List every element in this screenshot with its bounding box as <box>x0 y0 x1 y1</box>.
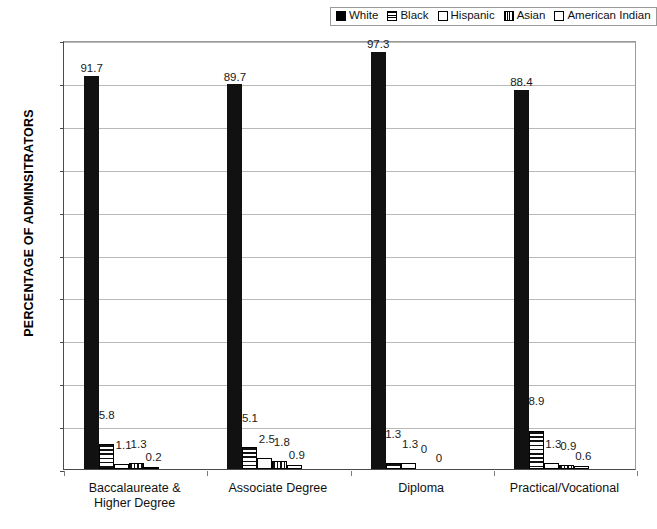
bar-black[interactable]: 8.9 <box>529 431 544 469</box>
y-tick-mark <box>60 128 64 129</box>
bar-slot: 0 <box>416 42 431 469</box>
legend-swatch-icon <box>504 11 514 21</box>
bar-group-bars: 91.75.81.11.30.2 <box>84 42 159 469</box>
bar-value-label: 8.9 <box>528 396 544 408</box>
bar-slot: 2.5 <box>257 42 272 469</box>
y-axis-title: PERCENTAGE OF ADMINSITRATORS <box>22 98 36 348</box>
y-tick-mark <box>60 257 64 258</box>
y-tick-mark <box>60 42 64 43</box>
bar-slot: 5.1 <box>242 42 257 469</box>
bar-asian[interactable]: 1.3 <box>129 463 144 469</box>
legend-swatch-icon <box>554 11 564 21</box>
x-axis-category-line: Higher Degree <box>63 496 206 511</box>
legend-item-label: Hispanic <box>451 10 495 22</box>
bar-group: 88.48.91.30.90.6 <box>514 42 589 469</box>
bar-value-label: 0 <box>436 453 442 465</box>
bar-hispanic[interactable]: 1.1 <box>114 464 129 469</box>
bar-slot: 1.1 <box>114 42 129 469</box>
bar-slot: 1.8 <box>272 42 287 469</box>
bar-american-indian[interactable]: 0.9 <box>287 465 302 469</box>
bar-group-bars: 88.48.91.30.90.6 <box>514 42 589 469</box>
bar-asian[interactable]: 0.9 <box>559 465 574 469</box>
y-tick-mark <box>60 171 64 172</box>
legend-swatch-icon <box>387 11 397 21</box>
bar-slot: 1.3 <box>544 42 559 469</box>
bar-asian[interactable]: 1.8 <box>272 461 287 469</box>
bar-value-label: 0.6 <box>575 451 591 463</box>
bar-slot: 0 <box>431 42 446 469</box>
legend-item-hispanic[interactable]: Hispanic <box>438 10 495 22</box>
x-axis-category-label: Associate Degree <box>206 481 349 496</box>
bar-slot: 91.7 <box>84 42 99 469</box>
y-tick-mark <box>60 342 64 343</box>
bar-group: 97.31.31.300 <box>371 42 446 469</box>
bar-value-label: 1.3 <box>385 429 401 441</box>
legend-item-label: Asian <box>517 10 546 22</box>
bar-american-indian[interactable]: 0.6 <box>574 466 589 469</box>
bar-slot: 0.9 <box>559 42 574 469</box>
bar-group-bars: 89.75.12.51.80.9 <box>227 42 302 469</box>
cropped-footer-text <box>246 521 436 529</box>
x-axis-category-line: Practical/Vocational <box>493 481 636 496</box>
x-axis-category-label: Diploma <box>350 481 493 496</box>
y-tick-mark <box>60 85 64 86</box>
legend-item-label: White <box>349 10 378 22</box>
x-tick-mark <box>637 471 638 476</box>
bar-slot: 0.6 <box>574 42 589 469</box>
y-tick-mark <box>60 214 64 215</box>
bar-slot: 0.9 <box>287 42 302 469</box>
bar-value-label: 0 <box>421 444 427 456</box>
bar-slot: 1.3 <box>401 42 416 469</box>
legend-item-american-indian[interactable]: American Indian <box>554 10 650 22</box>
bar-value-label: 0.2 <box>146 452 162 464</box>
bar-white[interactable]: 97.3 <box>371 52 386 469</box>
bar-slot: 1.3 <box>129 42 144 469</box>
bar-black[interactable]: 5.8 <box>99 444 114 469</box>
plot-area: 100908070605040302010091.75.81.11.30.289… <box>63 41 636 470</box>
legend-item-black[interactable]: Black <box>387 10 428 22</box>
bar-slot: 97.3 <box>371 42 386 469</box>
bar-white[interactable]: 88.4 <box>514 90 529 469</box>
legend-swatch-icon <box>336 11 346 21</box>
legend-item-white[interactable]: White <box>336 10 378 22</box>
x-axis-category-label: Practical/Vocational <box>493 481 636 496</box>
bar-slot: 8.9 <box>529 42 544 469</box>
bar-white[interactable]: 91.7 <box>84 76 99 469</box>
bar-black[interactable]: 5.1 <box>242 447 257 469</box>
x-tick-mark <box>207 471 208 476</box>
x-axis-category-line: Baccalaureate & <box>63 481 206 496</box>
bar-american-indian[interactable]: 0.2 <box>144 467 159 469</box>
bar-white[interactable]: 89.7 <box>227 84 242 469</box>
bar-value-label: 5.8 <box>99 410 115 422</box>
bar-hispanic[interactable]: 2.5 <box>257 458 272 469</box>
bar-group: 91.75.81.11.30.2 <box>84 42 159 469</box>
x-axis-category-line: Associate Degree <box>206 481 349 496</box>
bar-group: 89.75.12.51.80.9 <box>227 42 302 469</box>
x-tick-mark <box>351 471 352 476</box>
bar-slot: 88.4 <box>514 42 529 469</box>
x-tick-mark <box>64 471 65 476</box>
bar-hispanic[interactable]: 1.3 <box>544 463 559 469</box>
bar-slot: 1.3 <box>386 42 401 469</box>
x-tick-mark <box>494 471 495 476</box>
bar-group-bars: 97.31.31.300 <box>371 42 446 469</box>
bar-value-label: 0.9 <box>289 450 305 462</box>
bar-slot: 0.2 <box>144 42 159 469</box>
legend-item-asian[interactable]: Asian <box>504 10 546 22</box>
legend-item-label: American Indian <box>567 10 650 22</box>
bar-black[interactable]: 1.3 <box>386 463 401 469</box>
y-tick-mark <box>60 299 64 300</box>
y-tick-mark <box>60 428 64 429</box>
bar-value-label: 5.1 <box>242 413 258 425</box>
chart-legend: WhiteBlackHispanicAsianAmerican Indian <box>330 7 657 26</box>
bar-slot: 89.7 <box>227 42 242 469</box>
x-axis-category-label: Baccalaureate &Higher Degree <box>63 481 206 511</box>
bar-hispanic[interactable]: 1.3 <box>401 463 416 469</box>
bar-slot: 5.8 <box>99 42 114 469</box>
legend-item-label: Black <box>400 10 428 22</box>
legend-swatch-icon <box>438 11 448 21</box>
y-tick-mark <box>60 385 64 386</box>
x-axis-category-line: Diploma <box>350 481 493 496</box>
